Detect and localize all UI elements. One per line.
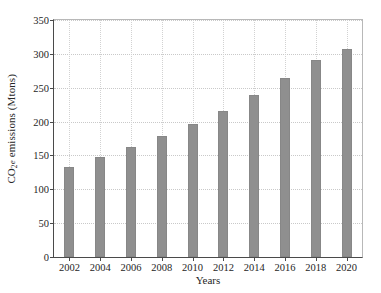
- plot-area: 050100150200250300350 200220042006200820…: [53, 19, 363, 258]
- y-axis-title: CO2e emissions (Mtons): [5, 74, 19, 184]
- x-axis-title: Years: [53, 274, 363, 286]
- bar-2018[interactable]: [311, 60, 321, 257]
- y-tick-mark-350: [50, 20, 54, 21]
- y-axis-title-subscript: 2: [10, 164, 19, 168]
- y-tick-label-250: 250: [33, 82, 49, 93]
- bar-2006[interactable]: [126, 147, 136, 257]
- y-tick-mark-100: [50, 189, 54, 190]
- x-tick-mark-2002: [69, 257, 70, 261]
- x-tick-label-2008: 2008: [151, 262, 172, 273]
- x-tick-mark-2012: [223, 257, 224, 261]
- bar-2012[interactable]: [218, 111, 228, 257]
- y-tick-label-200: 200: [33, 116, 49, 127]
- y-tick-mark-50: [50, 223, 54, 224]
- y-tick-label-350: 350: [33, 15, 49, 26]
- x-tick-mark-2010: [193, 257, 194, 261]
- bar-2010[interactable]: [188, 124, 198, 257]
- y-tick-mark-250: [50, 88, 54, 89]
- x-tick-label-2018: 2018: [305, 262, 326, 273]
- y-tick-mark-200: [50, 122, 54, 123]
- x-tick-label-2002: 2002: [59, 262, 80, 273]
- x-tick-mark-2018: [316, 257, 317, 261]
- y-tick-label-150: 150: [33, 150, 49, 161]
- y-tick-label-50: 50: [39, 218, 50, 229]
- bar-2014[interactable]: [249, 95, 259, 258]
- x-tick-mark-2006: [131, 257, 132, 261]
- x-tick-label-2012: 2012: [213, 262, 234, 273]
- bar-2016[interactable]: [280, 78, 290, 257]
- x-tick-label-2010: 2010: [182, 262, 203, 273]
- x-tick-label-2014: 2014: [244, 262, 265, 273]
- y-axis-title-container: CO2e emissions (Mtons): [0, 0, 24, 258]
- y-tick-mark-150: [50, 155, 54, 156]
- y-tick-mark-0: [50, 257, 54, 258]
- x-tick-mark-2004: [100, 257, 101, 261]
- x-tick-label-2020: 2020: [336, 262, 357, 273]
- x-tick-label-2004: 2004: [90, 262, 111, 273]
- x-tick-mark-2016: [285, 257, 286, 261]
- x-tick-label-2006: 2006: [121, 262, 142, 273]
- y-tick-label-0: 0: [44, 252, 49, 263]
- bar-2008[interactable]: [157, 136, 167, 257]
- y-tick-label-300: 300: [33, 48, 49, 59]
- y-tick-label-100: 100: [33, 184, 49, 195]
- bar-2004[interactable]: [95, 157, 105, 257]
- y-axis-title-sub-suffix: e: [7, 160, 17, 164]
- bar-chart-figure: CO2e emissions (Mtons) 05010015020025030…: [0, 0, 381, 293]
- x-tick-mark-2008: [162, 257, 163, 261]
- x-tick-mark-2020: [347, 257, 348, 261]
- bar-2002[interactable]: [64, 167, 74, 257]
- y-axis-title-rest: emissions (Mtons): [5, 74, 17, 160]
- bar-2020[interactable]: [342, 49, 352, 257]
- y-tick-mark-300: [50, 54, 54, 55]
- x-tick-mark-2014: [254, 257, 255, 261]
- y-axis-title-prefix: CO: [5, 168, 17, 183]
- x-tick-label-2016: 2016: [275, 262, 296, 273]
